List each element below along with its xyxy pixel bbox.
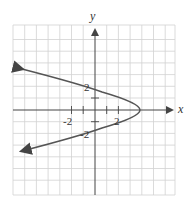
x-tick-label-2: 2 (114, 115, 120, 127)
y-tick-label-neg2: -2 (80, 128, 89, 140)
parabola-graph: y x -2 2 2 -2 (0, 0, 192, 207)
x-axis-label: x (177, 102, 184, 116)
y-axis-label: y (89, 9, 96, 23)
axes (13, 30, 172, 195)
y-tick-label-2: 2 (84, 81, 90, 93)
x-tick-label-neg2: -2 (63, 115, 72, 127)
